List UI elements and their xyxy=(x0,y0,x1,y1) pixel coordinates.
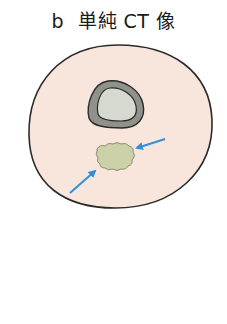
lesion xyxy=(96,143,134,171)
ct-diagram xyxy=(0,0,227,324)
